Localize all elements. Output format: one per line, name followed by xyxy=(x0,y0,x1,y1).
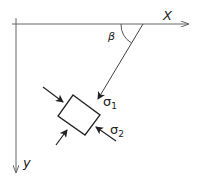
sigma1-label: σ1 xyxy=(103,94,117,111)
stress-element-box xyxy=(58,95,100,135)
sigma1-arrow-lower-left xyxy=(56,130,67,145)
angle-beta-label: β xyxy=(107,30,115,43)
angle-beta-arc xyxy=(121,24,132,43)
sigma2-label: σ2 xyxy=(110,122,124,139)
principal-direction-line xyxy=(98,24,143,99)
y-axis-label: y xyxy=(22,155,31,170)
sigma2-arrow-upper-left xyxy=(43,87,63,102)
diagram-canvas: X y β σ1 σ2 xyxy=(0,0,198,178)
x-axis-label: X xyxy=(162,8,173,23)
